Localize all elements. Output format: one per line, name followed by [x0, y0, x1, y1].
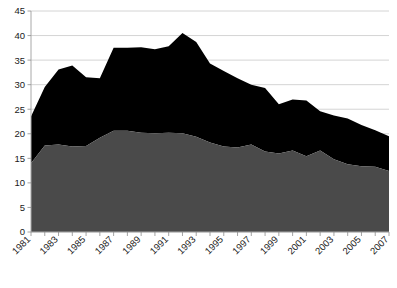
x-tick-label: 1991: [147, 234, 170, 257]
x-tick-label: 1997: [230, 234, 253, 257]
x-tick-label: 2003: [313, 234, 336, 257]
y-tick-label: 15: [14, 153, 25, 164]
x-tick-label: 1987: [92, 234, 115, 257]
x-tick-label: 1999: [258, 234, 281, 257]
y-tick-label: 45: [14, 5, 25, 16]
x-tick-label: 2001: [285, 234, 308, 257]
x-tick-label: 2007: [368, 234, 391, 257]
x-tick-label: 1993: [175, 234, 198, 257]
stacked-area-chart: 0510152025303540451981198319851987198919…: [0, 0, 397, 288]
y-tick-label: 25: [14, 104, 25, 115]
x-axis-ticks: 1981198319851987198919911993199519971999…: [10, 232, 391, 256]
y-tick-label: 35: [14, 55, 25, 66]
x-tick-label: 2005: [340, 234, 363, 257]
x-tick-label: 1981: [10, 234, 33, 257]
y-tick-label: 10: [14, 177, 25, 188]
chart-canvas: 0510152025303540451981198319851987198919…: [0, 0, 397, 288]
x-tick-label: 1989: [120, 234, 143, 257]
y-axis-ticks: 051015202530354045: [14, 5, 31, 237]
x-tick-label: 1995: [202, 234, 225, 257]
y-tick-label: 20: [14, 128, 25, 139]
y-tick-label: 5: [20, 202, 25, 213]
y-tick-label: 40: [14, 30, 25, 41]
x-tick-label: 1983: [37, 234, 60, 257]
y-tick-label: 30: [14, 79, 25, 90]
x-tick-label: 1985: [65, 234, 88, 257]
